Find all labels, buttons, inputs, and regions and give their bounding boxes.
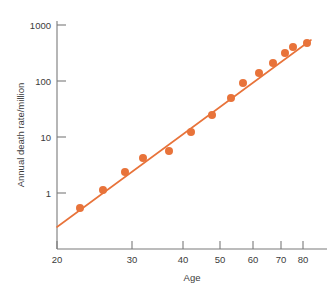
y-tick-label-100: 100	[35, 76, 51, 87]
y-tick-label-1: 1	[46, 188, 51, 199]
data-point	[139, 154, 147, 162]
data-point	[281, 49, 289, 57]
data-point	[99, 186, 107, 194]
x-axis-title: Age	[184, 272, 201, 283]
fitted-trend-line	[57, 40, 311, 227]
data-point	[227, 94, 235, 102]
data-point	[121, 168, 129, 176]
y-tick-label-10: 10	[40, 132, 51, 143]
x-tick-label-40: 40	[178, 254, 189, 265]
data-point	[303, 39, 311, 47]
x-tick-label-70: 70	[276, 254, 287, 265]
data-point	[255, 69, 263, 77]
data-point	[208, 111, 216, 119]
y-axis-title: Annual death rate/million	[15, 83, 26, 188]
data-point	[269, 59, 277, 67]
data-point	[187, 128, 195, 136]
x-tick-label-30: 30	[127, 254, 138, 265]
data-point	[239, 79, 247, 87]
chart-figure: 1000 100 10 1 Annual death rate/million …	[0, 0, 335, 295]
x-tick-label-80: 80	[298, 254, 309, 265]
data-point-group	[76, 39, 311, 212]
data-point	[76, 204, 84, 212]
data-point	[165, 147, 173, 155]
data-point	[289, 43, 297, 51]
y-tick-label-1000: 1000	[30, 20, 51, 31]
semilog-scatter-plot: 1000 100 10 1 Annual death rate/million …	[0, 0, 335, 295]
x-tick-label-60: 60	[248, 254, 259, 265]
x-tick-label-20: 20	[52, 254, 63, 265]
x-tick-label-50: 50	[215, 254, 226, 265]
